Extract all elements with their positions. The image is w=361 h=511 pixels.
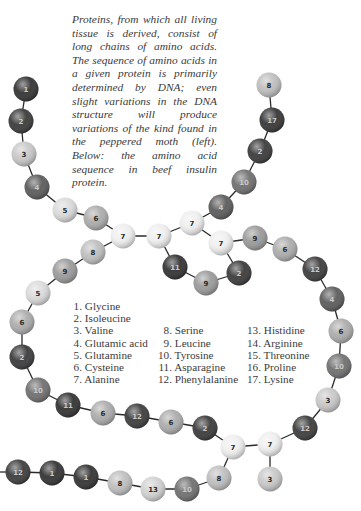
bead-number: 4: [35, 184, 40, 192]
amino-acid-bead: 7: [147, 224, 172, 249]
bead-number: 2: [203, 425, 208, 433]
amino-acid-bead: 12: [303, 257, 328, 282]
amino-acid-bead: 2: [9, 109, 34, 134]
bead-number: 3: [22, 151, 27, 159]
amino-acid-bead: 1: [74, 465, 99, 490]
amino-acid-bead: 2: [10, 345, 35, 370]
bead-number: 7: [268, 441, 273, 449]
legend-number: 10.: [157, 349, 172, 361]
amino-acid-bead: 8: [207, 466, 232, 491]
legend-number: 1.: [72, 300, 82, 312]
bead-number: 8: [118, 480, 123, 488]
amino-acid-bead: 3: [258, 467, 283, 492]
legend-item: 10. Tyrosine: [157, 349, 214, 361]
legend-number: 15.: [246, 349, 261, 361]
legend-number: 16.: [246, 361, 261, 373]
bead-number: 10: [334, 363, 344, 371]
legend-number: 4.: [72, 337, 82, 349]
bead-number: 10: [33, 387, 43, 395]
amino-acid-bead: 2: [227, 261, 252, 286]
legend-item: 17. Lysine: [246, 373, 294, 385]
legend-label: Phenylalanine: [172, 373, 238, 385]
legend-item: 16. Proline: [246, 361, 296, 373]
bead-number: 7: [190, 220, 195, 228]
legend-label: Threonine: [261, 349, 310, 361]
legend-number: 3.: [72, 324, 82, 336]
amino-acid-bead: 4: [320, 287, 345, 312]
bead-number: 9: [253, 235, 258, 243]
legend-item: 7. Alanine: [72, 373, 120, 385]
legend-item: 6. Cysteine: [72, 361, 124, 373]
legend-number: 2.: [72, 312, 82, 324]
amino-acid-bead: 6: [273, 237, 298, 262]
bead-number: 6: [169, 419, 174, 427]
amino-acid-bead: 9: [53, 259, 78, 284]
legend-label: Glycine: [82, 300, 120, 312]
amino-acid-bead: 1: [40, 461, 65, 486]
amino-acid-bead: 7: [180, 211, 205, 236]
amino-acid-bead: 12: [6, 460, 31, 485]
amino-acid-bead: 8: [257, 73, 282, 98]
amino-acid-bead: 12: [125, 404, 150, 429]
amino-acid-bead: 7: [209, 231, 234, 256]
bead-number: 10: [239, 179, 249, 187]
legend-label: Serine: [172, 324, 203, 336]
legend-number: 17.: [246, 373, 261, 385]
amino-acid-bead: 13: [141, 477, 166, 502]
legend-label: Isoleucine: [82, 312, 131, 324]
bead-number: 4: [219, 204, 224, 212]
legend-label: Tyrosine: [172, 349, 214, 361]
caption-text: Proteins, from which all living tissue i…: [72, 13, 217, 190]
amino-acid-bead: 8: [81, 240, 106, 265]
bead-number: 8: [91, 249, 96, 257]
amino-acid-bead: 7: [258, 432, 283, 457]
bead-number: 9: [63, 268, 68, 276]
legend-label: Alanine: [82, 373, 120, 385]
legend-label: Proline: [261, 361, 296, 373]
legend-item: 2. Isoleucine: [72, 312, 131, 324]
legend-item: 4. Glutamic acid: [72, 337, 148, 349]
legend-label: Valine: [82, 324, 113, 336]
amino-acid-bead: 10: [232, 170, 257, 195]
legend-label: Lysine: [261, 373, 294, 385]
legend-label: Leucine: [172, 337, 211, 349]
legend-label: Glutamine: [82, 349, 132, 361]
legend-item: 1. Glycine: [72, 300, 120, 312]
bead-number: 2: [19, 118, 24, 126]
legend-label: Asparagine: [172, 361, 225, 373]
legend-item: 15. Threonine: [246, 349, 310, 361]
bead-number: 12: [300, 425, 310, 433]
bead-number: 3: [268, 476, 273, 484]
legend-item: 8. Serine: [157, 324, 203, 336]
legend-item: 14. Arginine: [246, 337, 303, 349]
legend-item: 13. Histidine: [246, 324, 305, 336]
amino-acid-bead: 12: [293, 416, 318, 441]
amino-acid-bead: 10: [327, 354, 352, 379]
amino-acid-bead: 7: [111, 224, 136, 249]
legend-label: Cysteine: [82, 361, 124, 373]
amino-acid-bead: 4: [25, 175, 50, 200]
bead-number: 17: [267, 117, 277, 125]
bead-number: 7: [157, 233, 162, 241]
amino-acid-bead: 17: [260, 108, 285, 133]
bead-number: 3: [326, 397, 331, 405]
bead-number: 6: [20, 319, 25, 327]
legend-label: Arginine: [261, 337, 303, 349]
legend-number: 11.: [157, 361, 172, 373]
legend-item: 11. Asparagine: [157, 361, 225, 373]
amino-acid-bead: 3: [316, 388, 341, 413]
bead-number: 6: [94, 215, 99, 223]
amino-acid-bead: 3: [12, 142, 37, 167]
bead-number: 10: [182, 486, 192, 494]
legend-item: 5. Glutamine: [72, 349, 132, 361]
bead-number: 9: [204, 280, 209, 288]
amino-acid-bead: 5: [53, 198, 78, 223]
bead-number: 8: [217, 475, 222, 483]
amino-acid-bead: 10: [175, 477, 200, 502]
legend-label: Histidine: [261, 324, 305, 336]
bead-number: 12: [13, 469, 23, 477]
legend-item: 12. Phenylalanine: [157, 373, 238, 385]
bead-number: 7: [231, 444, 236, 452]
bead-number: 11: [63, 402, 73, 410]
amino-acid-bead: 11: [163, 255, 188, 280]
